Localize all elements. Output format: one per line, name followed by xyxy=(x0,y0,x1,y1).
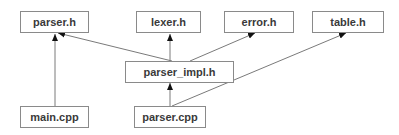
node-table-h: table.h xyxy=(312,11,384,33)
node-parser-cpp: parser.cpp xyxy=(134,106,206,128)
node-label: parser.cpp xyxy=(142,111,198,123)
node-error-h: error.h xyxy=(224,11,294,33)
node-parser-h: parser.h xyxy=(20,11,89,33)
node-label: main.cpp xyxy=(30,111,78,123)
node-label: parser.h xyxy=(33,16,76,28)
node-label: parser_impl.h xyxy=(143,66,215,78)
node-label: table.h xyxy=(330,16,365,28)
edge-parser-impl-to-parser-h xyxy=(58,33,172,61)
node-label: error.h xyxy=(242,16,277,28)
node-parser-impl-h: parser_impl.h xyxy=(125,61,234,83)
node-lexer-h: lexer.h xyxy=(136,11,201,33)
edge-parser-impl-to-error-h xyxy=(190,33,255,61)
node-label: lexer.h xyxy=(151,16,186,28)
node-main-cpp: main.cpp xyxy=(20,106,89,128)
